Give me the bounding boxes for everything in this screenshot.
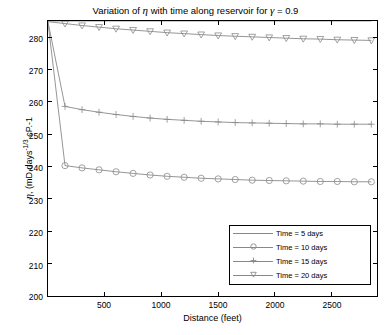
y-tick-mark [48,101,52,102]
chart-title-prefix: Variation of [93,5,143,16]
plus-marker-icon [250,257,257,264]
x-tick-mark [218,21,219,25]
chart-figure: Variation of η with time along reservoir… [0,0,391,335]
y-tick-mark [373,134,377,135]
legend-line-sample-2 [233,255,273,267]
x-tick-mark [274,21,275,25]
y-tick-mark [373,198,377,199]
y-tick-mark [48,69,52,70]
x-tick-mark [104,21,105,25]
x-tick-label-2500: 2500 [312,300,352,310]
legend-label-3: Time = 20 days [276,271,327,280]
x-tick-label-1000: 1000 [141,300,181,310]
y-tick-mark [373,296,377,297]
x-tick-label-1500: 1500 [198,300,238,310]
circle-marker-icon [250,243,257,250]
x-tick-mark [161,292,162,296]
legend-item-1[interactable]: Time = 10 days [230,240,370,254]
y-tick-mark [48,296,52,297]
x-tick-mark [331,292,332,296]
legend-item-2[interactable]: Time = 15 days [230,254,370,268]
chart-title-mid: with time along reservoir for [148,5,270,16]
y-tick-mark [373,37,377,38]
legend-line-sample-3 [233,269,273,281]
x-tick-mark [331,21,332,25]
x-tick-mark [274,292,275,296]
y-tick-mark [48,198,52,199]
y-tick-mark [373,231,377,232]
y-tick-mark [48,263,52,264]
legend-label-0: Time = 5 days [276,229,323,238]
y-tick-label-200: 200 [3,292,43,302]
y-tick-mark [48,231,52,232]
legend-label-2: Time = 15 days [276,257,327,266]
chart-title: Variation of η with time along reservoir… [0,4,391,16]
x-tick-mark [104,292,105,296]
y-axis-label-symbol: η [23,194,34,199]
y-tick-mark [48,166,52,167]
y-axis-label-units: , (mD.days-1/3 cP.-1 [24,117,34,194]
chart-legend: Time = 5 days Time = 10 days Time = 15 d… [229,225,371,285]
chart-title-suffix: = 0.9 [274,5,298,16]
legend-item-3[interactable]: Time = 20 days [230,268,370,282]
y-tick-mark [48,134,52,135]
legend-item-0[interactable]: Time = 5 days [230,226,370,240]
y-tick-mark [48,37,52,38]
y-tick-mark [373,166,377,167]
legend-line-sample-1 [233,241,273,253]
x-tick-mark [161,21,162,25]
y-axis-label: η, (mD.days-1/3 cP.-1 [22,68,34,248]
x-tick-label-2000: 2000 [255,300,295,310]
y-tick-label-280: 280 [3,34,43,44]
legend-line-sample-0 [233,227,273,239]
triangle-down-marker-icon [250,271,257,278]
x-axis-label: Distance (feet) [47,313,378,323]
x-tick-mark [218,292,219,296]
y-tick-mark [373,69,377,70]
x-tick-label-500: 500 [84,300,124,310]
y-tick-mark [373,101,377,102]
y-tick-mark [373,263,377,264]
legend-label-1: Time = 10 days [276,243,327,252]
y-tick-label-210: 210 [3,261,43,271]
